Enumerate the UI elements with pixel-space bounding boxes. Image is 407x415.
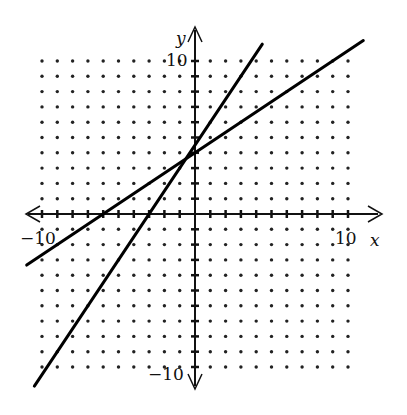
y-min-label: −10 [148, 366, 184, 383]
y-axis-label: y [176, 30, 186, 47]
x-min-label: −10 [20, 230, 56, 247]
plot-area [0, 0, 407, 415]
line-steep [34, 44, 262, 386]
x-max-label: 10 [335, 230, 357, 247]
x-axis-label: x [370, 232, 380, 249]
y-max-label: 10 [166, 52, 188, 69]
coordinate-graph: y 10 −10 10 x −10 [0, 0, 407, 415]
